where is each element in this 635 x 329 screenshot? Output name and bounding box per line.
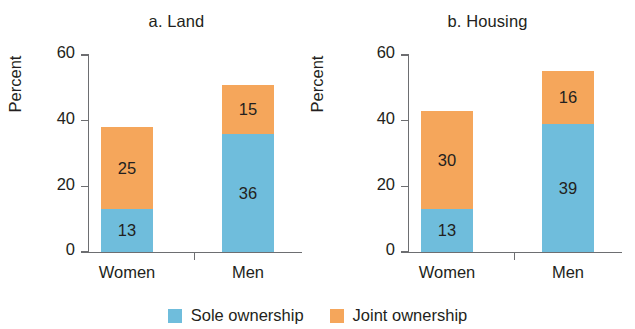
plot-area-land: 0204060 13253615 WomenMen — [88, 55, 300, 252]
y-tick: 20 — [401, 186, 409, 187]
y-tick-label: 20 — [57, 175, 75, 194]
bar-segment: 39 — [542, 124, 594, 252]
legend-swatch-icon — [330, 309, 344, 323]
legend-label: Sole ownership — [191, 306, 304, 325]
stacked-bar: 3916 — [542, 71, 594, 252]
bar-value-label: 36 — [239, 185, 257, 202]
legend-swatch-icon — [168, 309, 182, 323]
bar-segment: 30 — [421, 111, 473, 210]
x-tick-label: Men — [232, 263, 264, 282]
y-tick-label: 0 — [66, 240, 75, 259]
y-tick: 20 — [81, 186, 89, 187]
plot-area-housing: 0204060 13303916 WomenMen — [408, 55, 620, 252]
bar-value-label: 39 — [559, 180, 577, 197]
y-tick-label: 40 — [377, 109, 395, 128]
y-tick-label: 60 — [57, 43, 75, 62]
figure: a. Land Percent 0204060 13253615 WomenMe… — [0, 0, 635, 329]
bar-segment: 13 — [101, 209, 153, 252]
bar-segment: 16 — [542, 71, 594, 124]
y-tick: 60 — [401, 54, 409, 55]
bar-segment: 25 — [101, 127, 153, 209]
x-tick-label: Women — [419, 263, 476, 282]
y-axis-line — [88, 55, 89, 252]
x-tick-label: Women — [99, 263, 156, 282]
y-tick: 60 — [81, 54, 89, 55]
y-tick: 0 — [81, 251, 89, 252]
y-tick-label: 60 — [377, 43, 395, 62]
y-tick: 40 — [401, 120, 409, 121]
bar-value-label: 16 — [559, 89, 577, 106]
y-tick-label: 0 — [386, 240, 395, 259]
y-axis-title-housing: Percent — [308, 24, 330, 144]
chart-legend: Sole ownershipJoint ownership — [0, 306, 635, 325]
bar-value-label: 13 — [438, 222, 456, 239]
y-tick: 40 — [81, 120, 89, 121]
y-axis-title-land: Percent — [6, 24, 28, 144]
x-tick — [194, 252, 195, 260]
bar-value-label: 30 — [438, 152, 456, 169]
chart-panel-land: a. Land Percent 0204060 13253615 WomenMe… — [0, 0, 317, 295]
stacked-bar: 3615 — [222, 85, 274, 252]
panel-title-housing: b. Housing — [318, 12, 635, 31]
bar-segment: 36 — [222, 134, 274, 252]
bar-value-label: 25 — [118, 160, 136, 177]
stacked-bar: 1330 — [421, 111, 473, 252]
stacked-bar: 1325 — [101, 127, 153, 252]
bar-segment: 15 — [222, 85, 274, 134]
x-tick — [514, 252, 515, 260]
chart-panel-housing: b. Housing Percent 0204060 13303916 Wome… — [318, 0, 635, 295]
y-tick-label: 20 — [377, 175, 395, 194]
legend-label: Joint ownership — [353, 306, 468, 325]
y-tick-label: 40 — [57, 109, 75, 128]
legend-item: Sole ownership — [168, 306, 304, 325]
y-axis-line — [408, 55, 409, 252]
bar-value-label: 15 — [239, 101, 257, 118]
y-tick: 0 — [401, 251, 409, 252]
x-tick-label: Men — [552, 263, 584, 282]
legend-item: Joint ownership — [330, 306, 468, 325]
panel-title-land: a. Land — [0, 12, 317, 31]
bar-segment: 13 — [421, 209, 473, 252]
bar-value-label: 13 — [118, 222, 136, 239]
